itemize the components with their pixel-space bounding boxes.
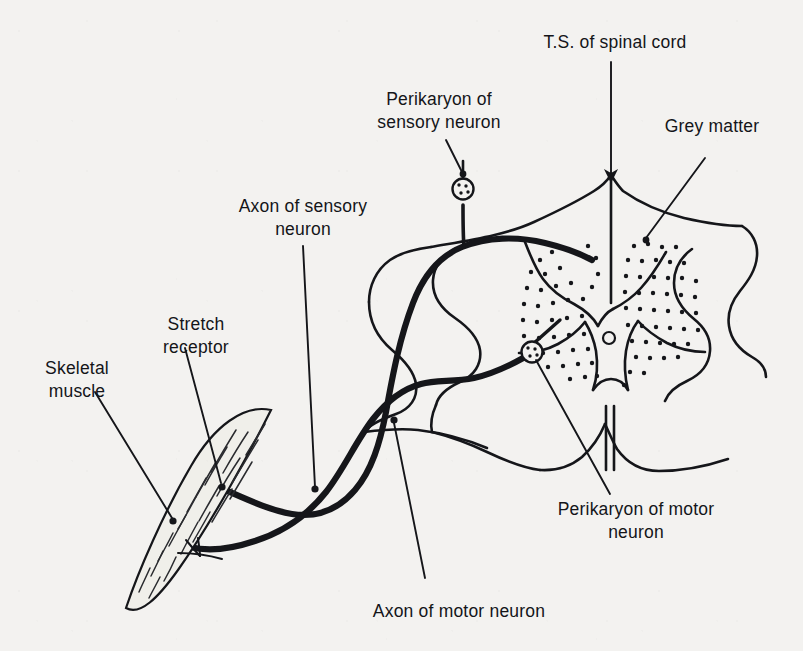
leader-grey-matter xyxy=(646,158,705,238)
label-perikaryon-sensory-line1: Perikaryon of xyxy=(386,89,492,109)
central-canal xyxy=(603,332,615,344)
node-stretch-receptor xyxy=(218,483,225,490)
label-perikaryon-sensory-line2: sensory neuron xyxy=(377,112,500,132)
label-axon-motor: Axon of motor neuron xyxy=(373,601,545,621)
spinal-cord-outline xyxy=(364,175,766,471)
label-skeletal-muscle-line1: Skeletal xyxy=(45,358,109,378)
label-skeletal-muscle-line2: muscle xyxy=(49,381,106,401)
label-stretch-receptor-line1: Stretch xyxy=(168,314,225,334)
node-grey-matter xyxy=(643,237,650,244)
node-perikaryon-sensory xyxy=(460,171,467,178)
leader-axon-sensory xyxy=(303,246,315,487)
label-axon-sensory-line2: neuron xyxy=(275,219,331,239)
skeletal-muscle xyxy=(126,409,271,610)
leader-skeletal-muscle xyxy=(95,392,172,518)
reflex-arc-figure: T.S. of spinal cord Grey matter Perikary… xyxy=(0,0,803,651)
leader-axon-motor xyxy=(394,423,425,578)
motor-perikaryon xyxy=(522,342,543,363)
node-skeletal-muscle xyxy=(169,517,176,524)
diagram-canvas: T.S. of spinal cord Grey matter Perikary… xyxy=(0,0,803,651)
label-perikaryon-motor-line2: neuron xyxy=(608,522,664,542)
label-stretch-receptor-line2: receptor xyxy=(163,337,229,357)
node-axon-motor xyxy=(390,416,397,423)
leader-perikaryon-sensory xyxy=(446,140,462,172)
label-spinal-cord: T.S. of spinal cord xyxy=(544,32,687,52)
grey-matter-region xyxy=(519,178,705,470)
label-axon-sensory-line1: Axon of sensory xyxy=(239,196,368,216)
label-grey-matter: Grey matter xyxy=(665,116,760,136)
node-axon-sensory xyxy=(311,485,318,492)
sensory-perikaryon xyxy=(453,161,474,200)
label-perikaryon-motor-line1: Perikaryon of motor xyxy=(558,499,715,519)
leader-perikaryon-motor xyxy=(536,360,610,494)
